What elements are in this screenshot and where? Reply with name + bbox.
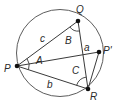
point-q-dot	[76, 19, 81, 24]
label-point-pprime: P'	[103, 45, 113, 56]
point-pprime-dot	[97, 50, 102, 55]
label-side-a: a	[84, 42, 90, 53]
label-angle-b: B	[65, 35, 72, 46]
label-angle-a: A	[35, 55, 43, 66]
angle-c-arc	[77, 77, 87, 85]
geometry-diagram: P Q P' R c a b A B C	[0, 0, 118, 107]
label-point-p: P	[4, 63, 11, 74]
segment-pprime-r	[88, 52, 99, 89]
angle-b-arc	[70, 27, 80, 31]
point-p-dot	[15, 64, 20, 69]
label-point-q: Q	[76, 4, 84, 15]
label-side-b: b	[47, 79, 53, 90]
label-angle-c: C	[72, 65, 80, 76]
label-side-c: c	[40, 33, 45, 44]
label-point-r: R	[90, 91, 97, 102]
